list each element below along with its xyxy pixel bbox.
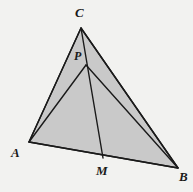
geometry-figure: C P A M B — [0, 0, 193, 192]
vertex-label-a: A — [11, 146, 20, 159]
vertex-label-p: P — [74, 50, 81, 62]
vertex-label-c: C — [75, 6, 84, 19]
vertex-label-b: B — [179, 170, 188, 183]
triangle-acb-region — [29, 28, 178, 168]
vertex-label-m: M — [96, 164, 108, 177]
